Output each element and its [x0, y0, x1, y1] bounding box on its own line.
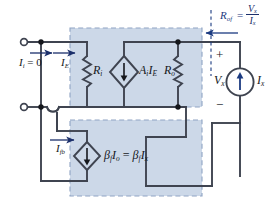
annotation-lhs: Rof: [220, 10, 232, 22]
circuit-diagram-figure: Ii = 0 IE Ifb Ri AiIE Ro βfIo = βfIx Vx …: [0, 0, 272, 206]
node-dot-output-bottom: [175, 104, 180, 109]
annotation-fraction: Vx Ix: [246, 3, 259, 27]
label-resistor-ro: Ro: [164, 64, 175, 77]
node-dot-top-left: [38, 39, 43, 44]
label-dependent-source-ai-ie: AiIE: [139, 64, 157, 77]
schematic-canvas: [0, 0, 272, 206]
test-current-source-symbol: [226, 68, 253, 95]
label-resistor-ri: Ri: [93, 64, 102, 77]
label-polarity-plus: +: [216, 48, 223, 61]
node-dot-bottom-left: [38, 104, 43, 109]
node-dot-output-top: [175, 39, 180, 44]
label-polarity-minus: −: [216, 98, 223, 111]
label-test-voltage: Vx: [214, 74, 225, 87]
amplifier-block-fill: [70, 28, 202, 107]
wire-hop-jumper-overlay: [47, 107, 59, 112]
annotation-denominator: Ix: [246, 14, 259, 26]
label-emitter-current: IE: [61, 57, 69, 69]
input-terminal-top: [21, 39, 28, 46]
annotation-equals: =: [237, 10, 243, 21]
annotation-numerator: Vx: [246, 3, 259, 14]
label-test-current: Ix: [257, 74, 264, 87]
label-feedback-current: Ifb: [56, 143, 65, 155]
label-dependent-source-beta: βfIo = βfIx: [104, 149, 148, 162]
label-input-current: Ii = 0: [19, 57, 42, 69]
input-terminal-bottom: [21, 104, 28, 111]
